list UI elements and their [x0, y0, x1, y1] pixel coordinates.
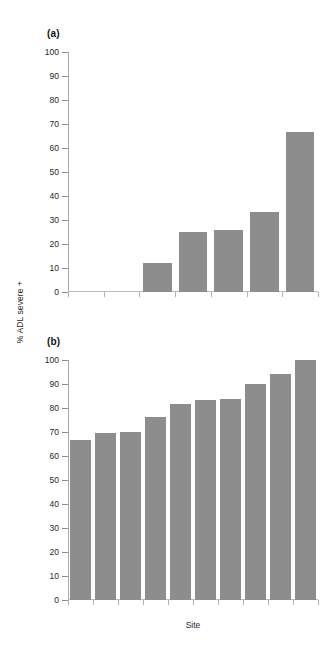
y-tick-label: 40 [50, 500, 59, 509]
x-tick [247, 292, 248, 297]
x-tick [211, 292, 212, 297]
y-tick [62, 268, 68, 269]
y-tick-label: 90 [50, 380, 59, 389]
y-tick [62, 124, 68, 125]
y-tick-label: 40 [50, 192, 59, 201]
y-tick [62, 360, 68, 361]
y-tick-label: 70 [50, 428, 59, 437]
bar [179, 232, 208, 292]
x-tick [243, 600, 244, 605]
x-tick [93, 600, 94, 605]
bar [295, 360, 317, 600]
panel-a-y-axis [68, 52, 69, 292]
panel-b-tag: (b) [47, 336, 60, 347]
bar [250, 212, 279, 292]
bar [145, 417, 167, 600]
y-tick [62, 432, 68, 433]
x-tick [68, 600, 69, 605]
bar [143, 263, 172, 292]
x-tick [139, 292, 140, 297]
y-tick-label: 0 [54, 596, 59, 605]
y-tick [62, 576, 68, 577]
y-tick-label: 0 [54, 288, 59, 297]
x-axis-label: Site [68, 620, 318, 630]
y-tick-label: 80 [50, 96, 59, 105]
x-tick [218, 600, 219, 605]
x-tick [268, 600, 269, 605]
panel-b: (b) 0102030405060708090100 Site [0, 336, 334, 636]
bar [270, 374, 292, 600]
y-tick [62, 552, 68, 553]
y-tick-label: 50 [50, 476, 59, 485]
y-tick-label: 50 [50, 168, 59, 177]
y-tick [62, 528, 68, 529]
y-tick-label: 60 [50, 452, 59, 461]
panel-a-tag: (a) [47, 28, 60, 39]
x-tick [175, 292, 176, 297]
y-tick [62, 408, 68, 409]
bar [286, 132, 315, 292]
x-tick [168, 600, 169, 605]
y-tick-label: 70 [50, 120, 59, 129]
bar [214, 230, 243, 292]
y-tick [62, 172, 68, 173]
x-tick [318, 600, 319, 605]
y-tick-label: 30 [50, 524, 59, 533]
y-tick-label: 90 [50, 72, 59, 81]
y-tick [62, 480, 68, 481]
bar [220, 399, 242, 600]
x-tick [118, 600, 119, 605]
y-tick-label: 10 [50, 572, 59, 581]
y-tick-label: 20 [50, 240, 59, 249]
y-tick [62, 220, 68, 221]
x-tick [104, 292, 105, 297]
bar [70, 440, 92, 600]
y-tick [62, 100, 68, 101]
bar [195, 400, 217, 600]
x-tick [68, 292, 69, 297]
y-tick [62, 196, 68, 197]
figure: % ADL severe + (a) 010203040506070809010… [0, 0, 334, 661]
x-tick [143, 600, 144, 605]
y-tick-label: 20 [50, 548, 59, 557]
panel-a-plot-area: 0102030405060708090100 [68, 52, 318, 292]
y-tick-label: 100 [45, 356, 59, 365]
y-tick [62, 148, 68, 149]
panel-b-plot-area: 0102030405060708090100 [68, 360, 318, 600]
x-tick [193, 600, 194, 605]
y-tick-label: 30 [50, 216, 59, 225]
y-tick [62, 504, 68, 505]
panel-a: (a) 0102030405060708090100 [0, 28, 334, 316]
bar [120, 432, 142, 600]
y-tick [62, 52, 68, 53]
y-tick [62, 384, 68, 385]
y-tick [62, 76, 68, 77]
bar [245, 384, 267, 600]
x-tick [318, 292, 319, 297]
y-tick-label: 60 [50, 144, 59, 153]
bar [170, 404, 192, 600]
y-tick [62, 456, 68, 457]
bar [95, 433, 117, 600]
y-tick-label: 10 [50, 264, 59, 273]
x-tick [282, 292, 283, 297]
x-tick [293, 600, 294, 605]
y-tick [62, 244, 68, 245]
y-tick-label: 80 [50, 404, 59, 413]
y-tick-label: 100 [45, 48, 59, 57]
